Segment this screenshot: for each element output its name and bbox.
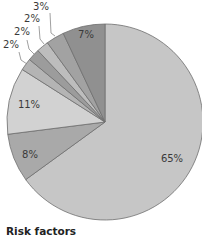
slice-label: 11% xyxy=(18,99,40,110)
slice-label: 2% xyxy=(14,26,30,37)
pie-chart: 65%8%11%2%2%2%3%7% xyxy=(0,0,202,243)
slice-label: 3% xyxy=(33,1,49,12)
leader-line xyxy=(39,26,44,44)
slice-label: 2% xyxy=(3,39,19,50)
slice-label: 2% xyxy=(24,13,40,24)
leader-line xyxy=(50,13,55,36)
leader-line xyxy=(27,40,34,54)
legend-title: Risk factors xyxy=(6,225,76,237)
leader-line xyxy=(19,52,27,64)
slice-label: 7% xyxy=(78,29,94,40)
slice-label: 8% xyxy=(22,149,38,160)
slice-label: 65% xyxy=(161,153,183,164)
